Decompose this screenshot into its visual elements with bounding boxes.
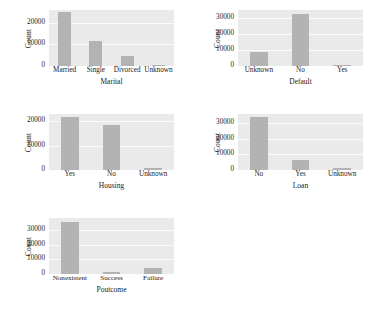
y-tick-label: 20000 [27, 118, 45, 125]
chart-panel-default: Count0100002000030000UnknownNoYesDefault [189, 0, 377, 104]
bar [61, 117, 79, 170]
x-tick-label: Unknown [139, 171, 167, 178]
plot-area [49, 218, 174, 274]
y-tick-label: 30000 [216, 120, 234, 127]
bar [292, 160, 310, 170]
y-tick-label: 20000 [216, 135, 234, 142]
plot-area [49, 114, 174, 170]
x-tick-label: Yes [337, 67, 347, 74]
x-tick-label: Yes [295, 171, 305, 178]
y-tick-label: 30000 [27, 226, 45, 233]
bar [250, 117, 268, 170]
y-tick-label: 0 [41, 166, 45, 173]
y-axis-ticks: 01000020000 [12, 10, 47, 66]
y-axis-ticks: 0100002000030000 [12, 218, 47, 274]
x-axis-label: Marital [49, 78, 174, 86]
chart-panel-loan: Count0100002000030000NoYesUnknownLoan [189, 104, 377, 208]
y-tick-label: 10000 [27, 41, 45, 48]
y-tick-label: 20000 [27, 241, 45, 248]
x-axis-label: Default [238, 78, 363, 86]
x-tick-label: No [254, 171, 263, 178]
x-tick-label: Married [53, 67, 76, 74]
bar [58, 12, 71, 66]
y-tick-label: 0 [230, 62, 234, 69]
x-tick-label: Nonexistent [53, 275, 87, 282]
x-tick-label: Divorced [114, 67, 141, 74]
chart-panel-poutcome: Count0100002000030000NonexistentSuccessF… [0, 208, 188, 311]
bar [250, 52, 268, 66]
x-tick-label: Yes [65, 171, 75, 178]
x-tick-label: Unknown [245, 67, 273, 74]
x-axis-label: Poutcome [49, 286, 174, 294]
bar [61, 222, 79, 274]
y-axis-ticks: 0100002000030000 [201, 114, 236, 170]
y-tick-label: 0 [41, 62, 45, 69]
y-tick-label: 10000 [216, 46, 234, 53]
y-tick-label: 10000 [27, 256, 45, 263]
y-tick-label: 10000 [216, 151, 234, 158]
x-tick-label: Failure [143, 275, 163, 282]
chart-panel-housing: Count01000020000YesNoUnknownHousing [0, 104, 188, 208]
x-tick-label: Success [100, 275, 122, 282]
y-tick-label: 0 [230, 166, 234, 173]
plot-area [238, 10, 363, 66]
x-tick-label: No [107, 171, 116, 178]
plot-area [49, 10, 174, 66]
x-tick-label: Unknown [144, 67, 172, 74]
chart-panel-marital: Count01000020000MarriedSingleDivorcedUnk… [0, 0, 188, 104]
plot-area [238, 114, 363, 170]
x-tick-label: Unknown [328, 171, 356, 178]
bar [103, 125, 121, 170]
bar [89, 41, 102, 66]
chart-grid: Count01000020000MarriedSingleDivorcedUnk… [0, 0, 377, 311]
y-tick-label: 20000 [216, 30, 234, 37]
x-tick-label: No [296, 67, 305, 74]
y-axis-ticks: 01000020000 [12, 114, 47, 170]
bar [292, 14, 310, 66]
bar [121, 56, 134, 66]
y-tick-label: 0 [41, 270, 45, 277]
x-tick-label: Single [87, 67, 105, 74]
y-axis-ticks: 0100002000030000 [201, 10, 236, 66]
y-tick-label: 30000 [216, 14, 234, 21]
x-axis-label: Loan [238, 182, 363, 190]
x-axis-label: Housing [49, 182, 174, 190]
y-tick-label: 10000 [27, 142, 45, 149]
y-tick-label: 20000 [27, 19, 45, 26]
